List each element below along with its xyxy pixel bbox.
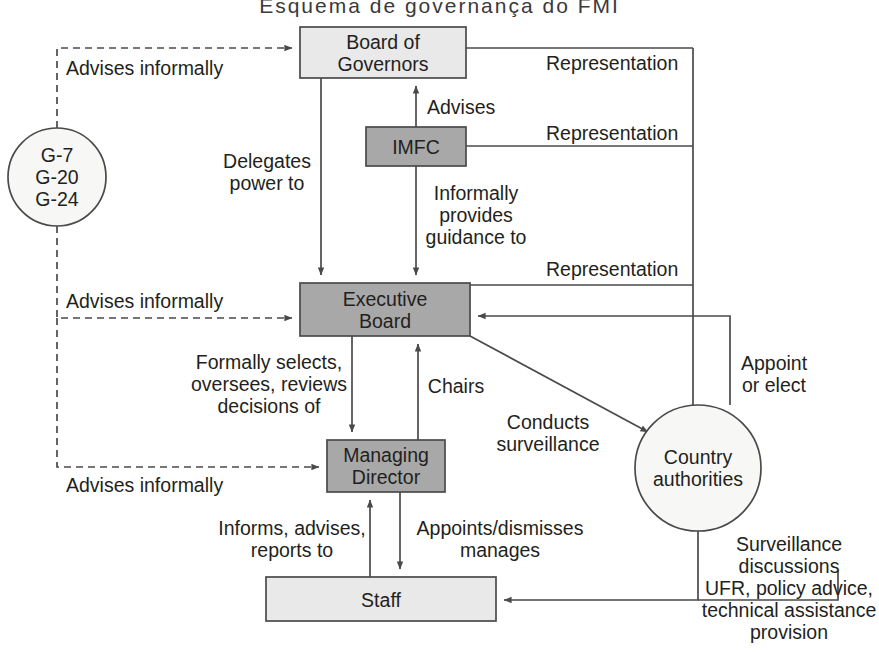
edge-label-representation-executive-board: Representation xyxy=(546,258,678,280)
edge-label-informs-advises-reports-to: Informs, advises, reports to xyxy=(218,517,365,561)
edge-label-conducts-surveillance: Conducts surveillance xyxy=(497,411,600,455)
diagram-canvas: Esquema de governança do FMI xyxy=(0,0,879,653)
edge-label-appoints-dismisses-manages: Appoints/dismisses manages xyxy=(417,517,584,561)
node-label-g-groups: G-7 G-20 G-24 xyxy=(35,144,78,210)
node-label-board-of-governors: Board of Governors xyxy=(337,31,428,75)
node-label-imfc: IMFC xyxy=(392,136,440,158)
node-label-executive-board: Executive Board xyxy=(343,288,428,332)
edge-label-representation-governors: Representation xyxy=(546,52,678,74)
node-label-country-authorities: Country authorities xyxy=(653,446,743,490)
edge-label-advises-informally-executive-board: Advises informally xyxy=(66,290,223,312)
edge-label-representation-imfc: Representation xyxy=(546,122,678,144)
edge-label-chairs: Chairs xyxy=(428,375,484,397)
edge-label-appoint-or-elect: Appoint or elect xyxy=(741,352,807,396)
edge-label-advises-informally-governors: Advises informally xyxy=(66,57,223,79)
edge-label-surveillance-discussions: Surveillance discussions UFR, policy adv… xyxy=(702,533,877,643)
node-label-staff: Staff xyxy=(361,589,401,611)
edge-label-delegates-power-to: Delegates power to xyxy=(223,150,311,194)
edge-label-informally-provides-guidance-to: Informally provides guidance to xyxy=(426,182,527,248)
edge-label-advises: Advises xyxy=(427,96,495,118)
node-label-managing-director: Managing Director xyxy=(343,444,429,488)
edge-label-advises-informally-managing-director: Advises informally xyxy=(66,474,223,496)
edge-label-formally-selects-oversees-reviews: Formally selects, oversees, reviews deci… xyxy=(191,351,347,417)
